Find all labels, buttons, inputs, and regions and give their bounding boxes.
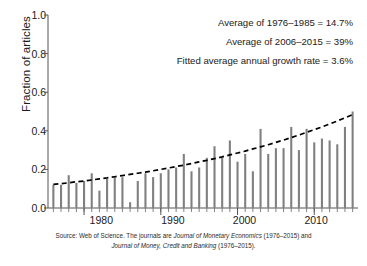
annotation-growth-rate: Fitted average annual growth rate = 3.6% [177,56,353,67]
x-tick-label: 2010 [296,214,336,226]
source-journal-1: Journal of Monetary Economics [174,232,262,239]
annotation-average-2006-2015: Average of 2006–2015 = 39% [177,37,353,48]
x-tick-label: 2000 [225,214,265,226]
x-tick-label: 1990 [153,214,193,226]
x-tick-label: 1980 [81,214,121,226]
source-text-part2: (1976–2015) and [262,232,312,239]
source-journal-2: Journal of Money, Credit and Banking [111,242,216,249]
chart-figure: Fraction of articles 1.0 0.8 0.6 0.4 0.2… [0,0,367,266]
source-text-part3: (1976–2015). [216,242,255,249]
annotation-average-1976-1985: Average of 1976–1985 = 14.7% [177,18,353,29]
source-note: Source: Web of Science. The journals are… [0,231,367,251]
trend-line [53,115,352,185]
chart-annotations: Average of 1976–1985 = 14.7% Average of … [177,18,353,75]
source-text-part1: Source: Web of Science. The journals are [56,232,174,239]
